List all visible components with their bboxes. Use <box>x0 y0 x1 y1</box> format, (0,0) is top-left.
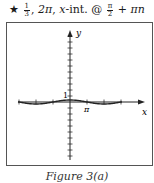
x-tick-label-pi: π <box>83 105 90 114</box>
graph-plot: x y π 1 <box>0 0 154 183</box>
y-axis-arrow-icon <box>68 30 73 37</box>
x-axis-arrow-icon <box>138 100 145 105</box>
y-tick-label-one: 1 <box>63 91 68 100</box>
graph-frame <box>7 23 153 166</box>
figure-caption: Figure 3(a) <box>0 170 154 183</box>
y-axis-label: y <box>75 28 82 38</box>
x-axis-label: x <box>142 107 147 117</box>
